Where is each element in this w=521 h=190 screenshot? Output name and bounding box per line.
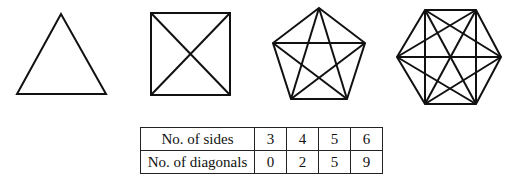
table-cell: 0 [255,151,287,174]
polygon-diagrams [0,0,521,120]
table-row-sides: No. of sides 3 4 5 6 [141,128,383,151]
triangle-shape [17,14,106,94]
table-cell: 9 [351,151,383,174]
table-row-diagonals: No. of diagonals 0 2 5 9 [141,151,383,174]
table-cell: 3 [255,128,287,151]
square-shape [151,13,230,95]
sides-diagonals-table: No. of sides 3 4 5 6 No. of diagonals 0 … [140,127,383,174]
table-cell: 5 [319,128,351,151]
table-cell: 6 [351,128,383,151]
row-label: No. of sides [141,128,255,151]
table-cell: 4 [287,128,319,151]
table-cell: 2 [287,151,319,174]
pentagon-shape [273,8,365,99]
hexagon-shape [397,10,501,104]
row-label: No. of diagonals [141,151,255,174]
table-cell: 5 [319,151,351,174]
